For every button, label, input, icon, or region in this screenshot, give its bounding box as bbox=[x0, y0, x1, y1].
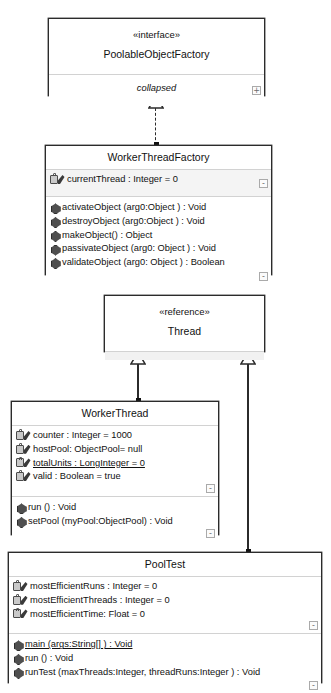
compartment-operations-pool-test: main (args:String[] ) : Void run () : Vo… bbox=[9, 633, 321, 693]
class-stereotype-reference: «reference» bbox=[109, 300, 260, 325]
class-name-pool-test: PoolTest bbox=[9, 553, 321, 576]
compartment-operations-worker-thread-factory: activateObject (arg0:Object ) : Void des… bbox=[46, 196, 271, 284]
compartment-empty-thread bbox=[105, 351, 264, 360]
public-operation-icon bbox=[13, 654, 23, 664]
class-name-worker-thread: WorkerThread bbox=[12, 402, 218, 425]
public-operation-icon bbox=[13, 667, 23, 677]
operation-row[interactable]: passivateObject (arg0: Object ) : Void bbox=[46, 242, 271, 256]
class-name-poolable-object-factory: PoolableObjectFactory bbox=[53, 48, 260, 69]
attribute-row[interactable]: currentThread : Integer = 0 bbox=[46, 173, 271, 187]
collapse-button-operations-worker-thread-factory[interactable]: - bbox=[259, 272, 268, 281]
public-operation-icon bbox=[16, 517, 26, 527]
class-name-worker-thread-factory: WorkerThreadFactory bbox=[46, 146, 271, 169]
operation-row[interactable]: run () : Void bbox=[12, 501, 218, 515]
public-operation-icon bbox=[50, 230, 60, 240]
class-box-poolable-object-factory[interactable]: «interface» PoolableObjectFactory collap… bbox=[48, 18, 265, 96]
operation-row[interactable]: validateObject (arg0: Object ) : Boolean bbox=[46, 256, 271, 270]
attribute-row[interactable]: mostEfficientThreads : Integer = 0 bbox=[9, 594, 321, 608]
expand-button-poolable[interactable]: + bbox=[252, 86, 261, 95]
attribute-row[interactable]: mostEfficientRuns : Integer = 0 bbox=[9, 580, 321, 594]
public-operation-icon bbox=[50, 217, 60, 227]
class-box-pool-test[interactable]: PoolTest mostEfficientRuns : Integer = 0… bbox=[8, 552, 322, 683]
attribute-row[interactable]: counter : Integer = 1000 bbox=[12, 429, 218, 443]
class-header-poolable-object-factory: «interface» PoolableObjectFactory bbox=[49, 19, 264, 74]
operation-row[interactable]: activateObject (arg0:Object ) : Void bbox=[46, 201, 271, 215]
private-attribute-icon bbox=[13, 609, 28, 620]
operation-row[interactable]: runTest (maxThreads:Integer, threadRuns:… bbox=[9, 666, 321, 680]
class-box-worker-thread[interactable]: WorkerThread counter : Integer = 1000 ho… bbox=[11, 401, 219, 535]
attribute-row[interactable]: hostPool: ObjectPool= null bbox=[12, 443, 218, 457]
private-attribute-icon bbox=[13, 581, 28, 592]
generalization-line-thread-workerthread bbox=[137, 364, 139, 401]
attribute-row[interactable]: valid : Boolean = true bbox=[12, 470, 218, 484]
private-attribute-icon bbox=[16, 472, 31, 483]
generalization-line-thread-pooltest bbox=[247, 364, 249, 552]
operation-row[interactable]: run () : Void bbox=[9, 652, 321, 666]
class-box-thread[interactable]: «reference» Thread bbox=[104, 295, 265, 352]
public-operation-icon bbox=[50, 203, 60, 213]
collapse-button-attributes-worker-thread[interactable]: - bbox=[206, 484, 215, 493]
operation-row[interactable]: destroyObject (arg0:Object ) : Void bbox=[46, 215, 271, 229]
private-attribute-icon bbox=[16, 444, 31, 455]
public-operation-icon bbox=[13, 640, 23, 650]
collapse-button-attributes-worker-thread-factory[interactable]: - bbox=[259, 179, 268, 188]
compartment-attributes-worker-thread-factory: currentThread : Integer = 0 - bbox=[46, 169, 271, 196]
attribute-row-static[interactable]: totalUnits : LongInteger = 0 bbox=[12, 457, 218, 471]
class-name-thread: Thread bbox=[109, 325, 260, 346]
operation-row[interactable]: makeObject() : Object bbox=[46, 229, 271, 243]
class-box-worker-thread-factory[interactable]: WorkerThreadFactory currentThread : Inte… bbox=[45, 145, 272, 275]
class-header-thread: «reference» Thread bbox=[105, 296, 264, 351]
compartment-attributes-pool-test: mostEfficientRuns : Integer = 0 mostEffi… bbox=[9, 576, 321, 633]
collapse-button-operations-worker-thread[interactable]: - bbox=[206, 529, 215, 538]
public-operation-icon bbox=[50, 258, 60, 268]
attribute-row[interactable]: mostEfficientTime: Float = 0 bbox=[9, 608, 321, 622]
operation-row[interactable]: setPool (myPool:ObjectPool) : Void bbox=[12, 515, 218, 529]
compartment-collapsed-poolable: collapsed + bbox=[49, 74, 264, 106]
private-attribute-icon bbox=[50, 174, 65, 185]
public-operation-icon bbox=[50, 244, 60, 254]
class-stereotype-interface: «interface» bbox=[53, 23, 260, 48]
compartment-operations-worker-thread: run () : Void setPool (myPool:ObjectPool… bbox=[12, 496, 218, 541]
public-operation-icon bbox=[16, 503, 26, 513]
collapse-button-attributes-pool-test[interactable]: - bbox=[309, 621, 318, 630]
private-attribute-icon bbox=[16, 430, 31, 441]
private-attribute-icon bbox=[13, 595, 28, 606]
realization-line-poolable bbox=[155, 108, 156, 145]
collapsed-indicator: collapsed bbox=[49, 78, 264, 96]
operation-row-static[interactable]: main (args:String[] ) : Void bbox=[9, 638, 321, 652]
collapse-button-operations-pool-test[interactable]: - bbox=[309, 681, 318, 690]
private-attribute-icon bbox=[16, 458, 31, 469]
compartment-attributes-worker-thread: counter : Integer = 1000 hostPool: Objec… bbox=[12, 425, 218, 496]
